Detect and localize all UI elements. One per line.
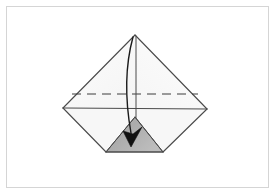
origami-diagram-svg (0, 0, 276, 194)
origami-diagram-root: Origami fold step diagram Line drawing o… (0, 0, 276, 194)
